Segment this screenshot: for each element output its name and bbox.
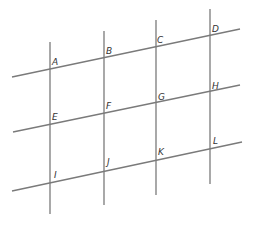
grid-diagram: ABCDEFGHIJKL: [0, 0, 254, 226]
point-label-c: C: [157, 35, 164, 45]
slanted-transversal-lines: [12, 29, 242, 191]
intersection-labels: ABCDEFGHIJKL: [51, 24, 219, 180]
point-label-f: F: [106, 101, 112, 111]
slanted-line-2: [13, 85, 240, 132]
point-label-h: H: [212, 81, 219, 91]
point-label-e: E: [52, 112, 58, 122]
point-label-g: G: [158, 92, 165, 102]
point-label-b: B: [106, 46, 112, 56]
point-label-i: I: [54, 170, 57, 180]
point-label-k: K: [158, 147, 165, 157]
point-label-l: L: [213, 136, 218, 146]
slanted-line-1: [12, 29, 240, 77]
point-label-a: A: [51, 57, 58, 67]
point-label-d: D: [212, 24, 219, 34]
point-label-j: J: [105, 157, 110, 167]
slanted-line-3: [12, 142, 242, 191]
